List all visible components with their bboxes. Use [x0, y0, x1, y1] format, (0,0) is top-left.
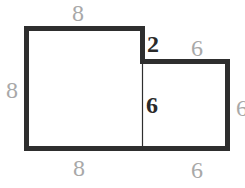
label-top-right: 6 — [191, 35, 203, 61]
label-bottom-left: 8 — [73, 155, 85, 181]
label-top-left: 8 — [72, 0, 84, 26]
label-left: 8 — [6, 77, 18, 103]
label-step-height: 2 — [147, 31, 159, 57]
label-bottom-right: 6 — [191, 157, 203, 183]
composite-shape-diagram: 8 8 8 6 6 6 2 6 — [0, 0, 245, 188]
label-right: 6 — [236, 95, 245, 121]
label-divider-height: 6 — [146, 92, 158, 118]
